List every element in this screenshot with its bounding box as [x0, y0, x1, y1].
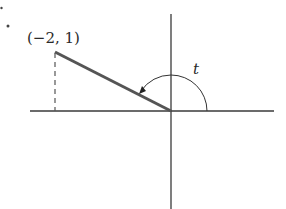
problem-number-dot-2	[7, 25, 10, 28]
unit-circle-angle-diagram: (−2, 1) t	[0, 0, 286, 209]
angle-label: t	[193, 60, 200, 78]
point-label: (−2, 1)	[27, 29, 80, 47]
arrowhead-icon	[139, 86, 146, 94]
angle-arc	[141, 75, 207, 111]
terminal-side-segment	[55, 52, 171, 111]
problem-number-dot-1	[0, 7, 2, 9]
